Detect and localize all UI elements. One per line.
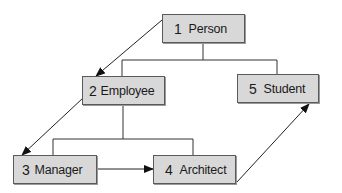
- node-label: Employee: [101, 84, 155, 98]
- node-label: Student: [264, 82, 306, 96]
- node-label: Architect: [180, 163, 227, 177]
- node-number: 5: [249, 81, 257, 97]
- node-number: 1: [174, 21, 182, 37]
- hierarchy-employee-children: [53, 105, 193, 155]
- node-number: 2: [89, 83, 97, 99]
- node-manager: 3 Manager: [13, 155, 97, 184]
- node-student: 5 Student: [237, 74, 319, 103]
- node-label: Manager: [35, 163, 83, 177]
- arrow-person-to-employee: [96, 20, 162, 76]
- node-person: 1 Person: [162, 14, 245, 43]
- node-number: 3: [22, 162, 30, 178]
- arrow-architect-to-student: [237, 104, 309, 182]
- node-number: 4: [165, 162, 173, 178]
- hierarchy-person-children: [122, 43, 277, 76]
- node-architect: 4 Architect: [153, 155, 236, 184]
- node-label: Person: [189, 22, 227, 36]
- node-employee: 2 Employee: [82, 76, 165, 105]
